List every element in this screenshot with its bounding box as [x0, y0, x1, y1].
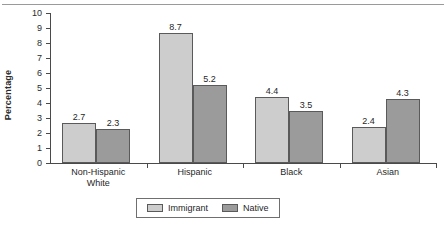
y-axis-tick-label: 4	[37, 98, 42, 108]
y-axis-title-text: Percentage	[3, 70, 13, 121]
legend-item[interactable]: Immigrant	[147, 203, 208, 213]
bar-group: 2.72.3	[50, 13, 147, 163]
bar-immigrant[interactable]: 2.4	[352, 127, 386, 163]
x-axis-category-label: Asian	[340, 167, 437, 178]
bar-native[interactable]: 4.3	[386, 99, 420, 164]
y-axis-title: Percentage	[0, 55, 16, 135]
bar-chart-figure: Percentage 012345678910 2.72.38.75.24.43…	[0, 0, 446, 225]
x-axis-category-label: Black	[243, 167, 340, 178]
cut-off-title-remnant	[90, 0, 360, 2]
bar-native[interactable]: 3.5	[289, 111, 323, 164]
bar-group: 2.44.3	[340, 13, 437, 163]
x-axis-category-label: Non-Hispanic White	[50, 167, 147, 189]
bar-value-label: 2.7	[73, 112, 86, 122]
y-axis-tick-label: 7	[37, 53, 42, 63]
bar-value-label: 8.7	[169, 22, 182, 32]
bar-immigrant[interactable]: 4.4	[255, 97, 289, 163]
y-axis-tick-label: 5	[37, 83, 42, 93]
y-axis-tick-label: 6	[37, 68, 42, 78]
y-axis-tick-label: 1	[37, 143, 42, 153]
bar-native[interactable]: 5.2	[193, 85, 227, 163]
bar-immigrant[interactable]: 2.7	[62, 123, 96, 164]
bar-group: 4.43.5	[243, 13, 340, 163]
legend-label: Immigrant	[168, 203, 208, 213]
x-axis-separator	[436, 163, 437, 168]
y-axis-tick-label: 0	[37, 158, 42, 168]
legend-item[interactable]: Native	[222, 203, 269, 213]
y-axis-tick-label: 2	[37, 128, 42, 138]
bar-value-label: 4.3	[396, 88, 409, 98]
chart-legend: ImmigrantNative	[136, 198, 280, 218]
legend-swatch	[147, 204, 163, 212]
x-axis-category-label: Hispanic	[147, 167, 244, 178]
bar-value-label: 2.4	[362, 116, 375, 126]
bar-group: 8.75.2	[147, 13, 244, 163]
plot-area: 012345678910 2.72.38.75.24.43.52.44.3	[50, 13, 436, 163]
bar-value-label: 2.3	[107, 118, 120, 128]
top-divider-rule	[2, 4, 444, 5]
bar-value-label: 4.4	[266, 86, 279, 96]
legend-swatch	[222, 204, 238, 212]
bar-value-label: 5.2	[203, 74, 216, 84]
bar-value-label: 3.5	[300, 100, 313, 110]
legend-label: Native	[243, 203, 269, 213]
bar-native[interactable]: 2.3	[96, 129, 130, 164]
y-axis-tick-label: 8	[37, 38, 42, 48]
bar-immigrant[interactable]: 8.7	[159, 33, 193, 164]
y-axis-tick: 0	[46, 163, 50, 164]
y-axis-tick-label: 10	[32, 8, 42, 18]
y-axis-tick-label: 9	[37, 23, 42, 33]
y-axis-tick-label: 3	[37, 113, 42, 123]
